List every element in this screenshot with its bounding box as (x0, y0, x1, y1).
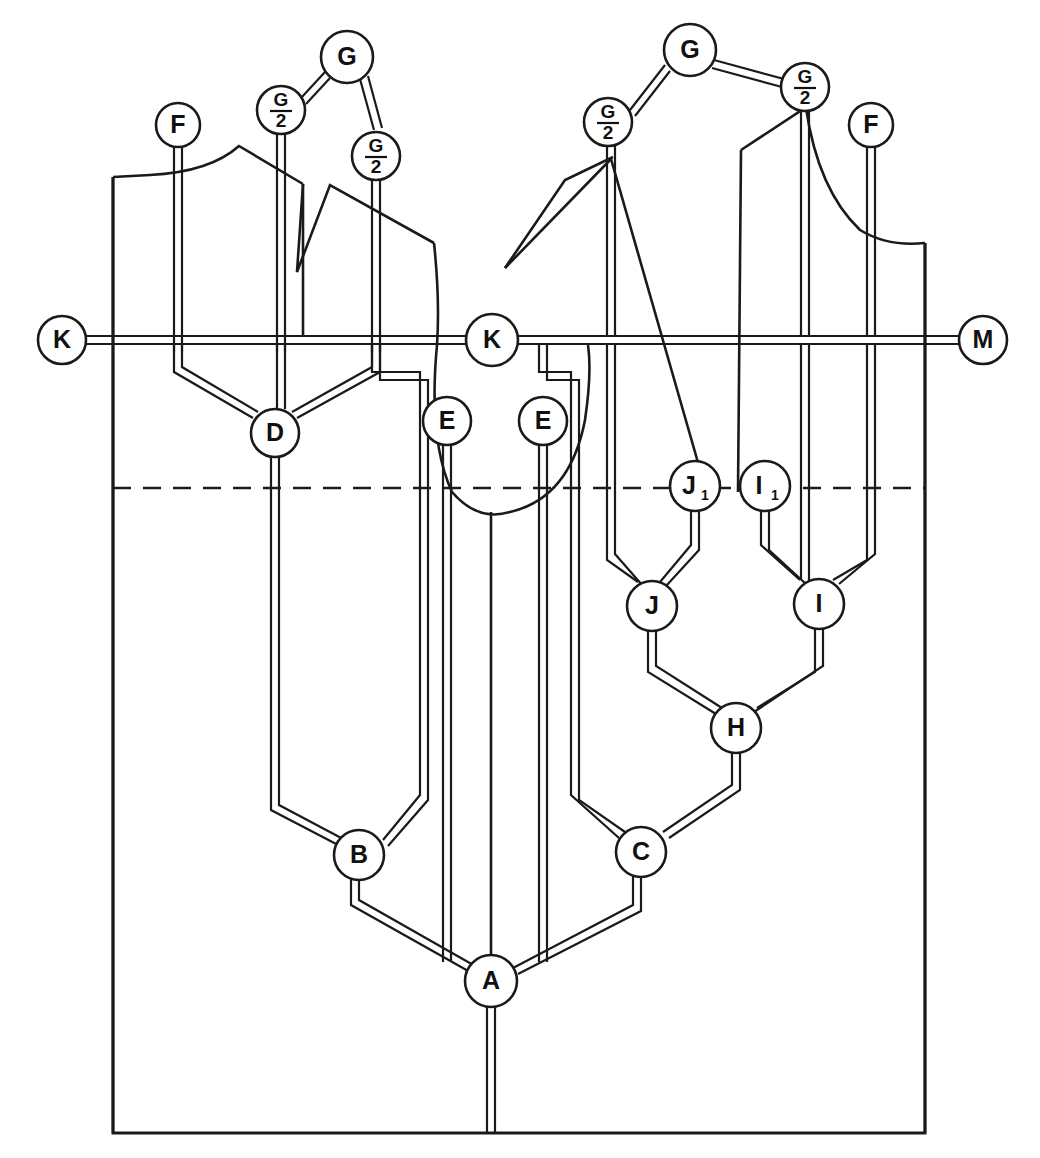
node-K-left[interactable]: K (38, 316, 86, 364)
node-label-numerator-G2-right: G (601, 101, 616, 122)
node-K-mid[interactable]: K (466, 314, 518, 366)
node-label-denominator-G2-right-2: 2 (800, 87, 811, 108)
node-label-numerator-G2-left: G (274, 89, 289, 110)
node-label-E-right: E (535, 406, 552, 434)
node-label-M-right: M (973, 325, 994, 353)
node-label-F-right: F (863, 110, 878, 138)
node-M-right[interactable]: M (959, 316, 1007, 364)
outer-frame (113, 177, 925, 1133)
node-subscript-J1: 1 (701, 487, 709, 503)
node-label-I: I (816, 589, 823, 617)
node-J1[interactable]: J1 (670, 461, 720, 511)
node-label-denominator-G2-left-2: 2 (371, 156, 382, 177)
node-label-denominator-G2-left: 2 (276, 110, 287, 131)
node-subscript-I1: 1 (771, 487, 779, 503)
center-spine-E (443, 444, 547, 1133)
node-label-K-left: K (53, 325, 71, 353)
node-label-K-mid: K (483, 325, 501, 353)
node-label-E-left: E (439, 406, 456, 434)
node-A-left-arm (351, 877, 475, 972)
node-label-F-left: F (170, 110, 185, 138)
node-A[interactable]: A (465, 955, 517, 1007)
node-label-C: C (632, 837, 650, 865)
node-I-converge (761, 511, 875, 584)
node-label-J: J (645, 591, 659, 619)
node-label-G-right: G (680, 35, 699, 63)
node-G2-left[interactable]: G2 (257, 86, 305, 134)
node-label-D: D (266, 418, 284, 446)
node-label-I1: I (756, 471, 763, 499)
node-B[interactable]: B (334, 830, 384, 880)
node-E-left[interactable]: E (423, 397, 471, 445)
right-panel-outline (611, 108, 925, 492)
node-G2-right-2[interactable]: G2 (781, 63, 829, 111)
node-C[interactable]: C (616, 827, 666, 877)
node-label-B: B (350, 840, 368, 868)
node-G2-right[interactable]: G2 (584, 98, 632, 146)
node-circle-I1 (740, 461, 790, 511)
left-vertical-drops (113, 134, 380, 1133)
diagram-canvas: FG2GG2G2GG2FKKMDEEJ1I1JIHBCA Pattern blo… (0, 0, 1040, 1158)
node-label-numerator-G2-left-2: G (369, 135, 384, 156)
horizontal-rail-K-M (86, 336, 959, 344)
node-F-left[interactable]: F (156, 103, 200, 147)
node-G-left[interactable]: G (321, 31, 373, 83)
node-label-H: H (727, 713, 745, 741)
node-G-right[interactable]: G (664, 24, 716, 76)
node-H[interactable]: H (711, 703, 761, 753)
node-I1[interactable]: I1 (740, 461, 790, 511)
center-vertical-K (607, 146, 615, 336)
node-I[interactable]: I (794, 579, 844, 629)
node-J-converge (607, 511, 699, 586)
pattern-diagram-svg: FG2GG2G2GG2FKKMDEEJ1I1JIHBCA (0, 0, 1040, 1158)
node-D[interactable]: D (251, 409, 299, 457)
node-label-J1: J (682, 471, 696, 499)
node-J[interactable]: J (627, 581, 677, 631)
node-label-G-left: G (337, 42, 356, 70)
node-E-right[interactable]: E (519, 397, 567, 445)
node-label-numerator-G2-right-2: G (798, 66, 813, 87)
node-G2-left-2[interactable]: G2 (352, 132, 400, 180)
node-F-right[interactable]: F (849, 103, 893, 147)
node-label-denominator-G2-right: 2 (603, 122, 614, 143)
node-label-A: A (482, 966, 500, 994)
